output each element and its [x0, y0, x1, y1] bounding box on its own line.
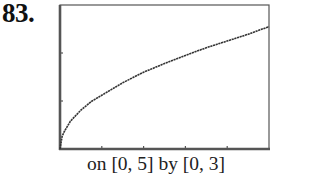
- axis-ticks: [60, 53, 227, 149]
- function-curve: [60, 27, 269, 149]
- window-caption: on [0, 5] by [0, 3]: [87, 153, 225, 175]
- plot-frame: [59, 5, 270, 150]
